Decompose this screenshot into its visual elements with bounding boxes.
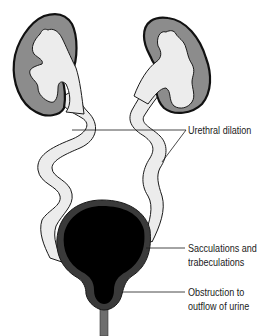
- label-urethral-dilation-text: Urethral dilation: [188, 124, 251, 136]
- label-sacculations-line2: trabeculations: [188, 255, 257, 269]
- label-urethral-dilation: Urethral dilation: [188, 123, 251, 137]
- left-kidney: [14, 14, 84, 115]
- label-obstruction: Obstruction to outflow of urine: [188, 285, 249, 313]
- bladder: [57, 200, 151, 310]
- label-obstruction-line2: outflow of urine: [188, 299, 249, 313]
- label-obstruction-line1: Obstruction to: [188, 285, 249, 299]
- right-kidney: [134, 18, 210, 113]
- bladder-lumen: [64, 206, 145, 304]
- label-sacculations-line1: Sacculations and: [188, 241, 257, 255]
- label-sacculations: Sacculations and trabeculations: [188, 241, 257, 269]
